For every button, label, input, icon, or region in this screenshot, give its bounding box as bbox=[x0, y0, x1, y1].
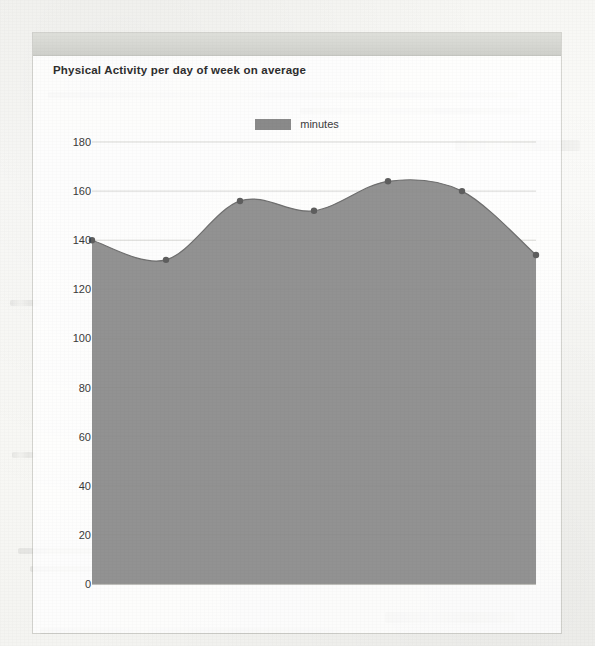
y-axis-tick-label: 100 bbox=[45, 332, 91, 344]
y-axis-tick-label: 40 bbox=[45, 480, 91, 492]
y-axis-tick-label: 120 bbox=[45, 283, 91, 295]
y-axis-tick-label: 160 bbox=[45, 185, 91, 197]
data-point-marker[interactable] bbox=[237, 198, 243, 204]
y-axis-tick-label: 60 bbox=[45, 431, 91, 443]
plot-area: 020406080100120140160180 bbox=[33, 33, 561, 633]
data-point-marker[interactable] bbox=[459, 188, 465, 194]
y-axis: 020406080100120140160180 bbox=[45, 33, 91, 633]
y-axis-tick-label: 180 bbox=[45, 136, 91, 148]
y-axis-tick-label: 0 bbox=[45, 578, 91, 590]
y-axis-tick-label: 80 bbox=[45, 382, 91, 394]
data-point-marker[interactable] bbox=[533, 252, 539, 258]
y-axis-tick-label: 140 bbox=[45, 234, 91, 246]
data-point-marker[interactable] bbox=[163, 257, 169, 263]
data-point-marker[interactable] bbox=[311, 208, 317, 214]
chart-card: Physical Activity per day of week on ave… bbox=[33, 33, 561, 633]
data-point-marker[interactable] bbox=[385, 178, 391, 184]
area-chart-svg bbox=[33, 33, 561, 633]
y-axis-tick-label: 20 bbox=[45, 529, 91, 541]
